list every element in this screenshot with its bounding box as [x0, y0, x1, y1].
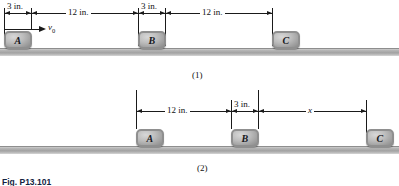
dimension-arrow-left [259, 109, 264, 113]
dimension-arrow-left [5, 11, 10, 15]
ground-surface-1 [0, 48, 399, 56]
block-a: A [136, 129, 164, 147]
velocity-label-subscript: 0 [52, 27, 55, 34]
dimension-label-3in: 3 in. [232, 99, 252, 109]
figure-caption: Fig. P13.101 [2, 177, 51, 186]
dimension-label-x: x [306, 105, 314, 115]
panel-1: 3 in. 12 in. 3 in. 12 in. v0 A B C (1) [0, 0, 399, 86]
dimension-arrow-left [137, 109, 142, 113]
velocity-label: v0 [48, 22, 55, 34]
block-c: C [366, 129, 394, 147]
dimension-label-3in-left: 3 in. [5, 1, 25, 11]
dimension-label-12in-left: 12 in. [66, 7, 91, 17]
dimension-label-12in-right: 12 in. [200, 7, 225, 17]
panel-2: 12 in. 3 in. x A B C (2) [0, 93, 399, 186]
block-b: B [231, 129, 259, 147]
dimension-label-3in-mid: 3 in. [139, 1, 159, 11]
dimension-label-12in: 12 in. [165, 105, 190, 115]
ground-surface-2 [0, 146, 399, 154]
dimension-arrow-left [166, 11, 171, 15]
dimension-arrow-left [139, 11, 144, 15]
block-b: B [138, 31, 166, 49]
panel-1-caption: (1) [192, 70, 203, 80]
block-a: A [4, 31, 32, 49]
panel-2-caption: (2) [197, 163, 208, 173]
dimension-arrow-right [267, 11, 272, 15]
extension-line-2d [366, 100, 367, 133]
velocity-arrow-head [39, 26, 46, 32]
dimension-arrow-right [361, 109, 366, 113]
figure-p13-101: 3 in. 12 in. 3 in. 12 in. v0 A B C (1) [0, 0, 399, 186]
dimension-arrow-left [32, 11, 37, 15]
velocity-arrow-shaft [4, 29, 40, 30]
dimension-arrow-left [232, 109, 237, 113]
block-c: C [272, 31, 300, 49]
